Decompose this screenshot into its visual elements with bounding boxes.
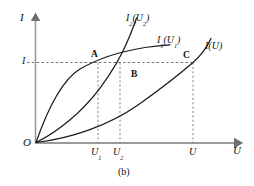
figure-container: I U O I U1 U2 U I2(U2) I1(U1) I(U) A B C… <box>0 0 254 186</box>
curve-I1-fn-subscript: 1 <box>160 42 163 49</box>
curve-I1-paren-close: ) <box>177 34 180 45</box>
y-axis-label: I <box>20 12 24 23</box>
figure-caption: (b) <box>118 167 130 177</box>
point-label-B: B <box>131 70 137 80</box>
plot-canvas <box>0 0 254 186</box>
curve-I2-paren-close: ) <box>146 12 149 23</box>
y-tick-label-I: I <box>22 56 25 66</box>
x-axis-label: U <box>233 145 241 156</box>
curve-I-paren-close: ) <box>219 40 222 51</box>
curve-I2-path <box>36 18 137 143</box>
curve-I1-arg-subscript: 1 <box>174 42 177 49</box>
curve-I2-arg-base: U <box>136 12 143 23</box>
curve-I2-arg-subscript: 2 <box>143 20 146 27</box>
curve-label-I2: I2(U2) <box>126 13 149 25</box>
curve-label-I: I(U) <box>205 41 222 51</box>
x-tick-U2-subscript: 2 <box>120 154 123 161</box>
curve-I1-path <box>36 45 170 143</box>
point-label-C: C <box>183 51 190 61</box>
x-tick-U-base: U <box>189 146 196 157</box>
point-label-A: A <box>91 50 98 60</box>
x-tick-label-U: U <box>189 147 196 157</box>
curve-I-arg-base: U <box>212 40 219 51</box>
x-tick-label-U1: U1 <box>91 147 101 159</box>
curve-I1-arg-base: U <box>167 34 174 45</box>
origin-label: O <box>23 137 31 148</box>
curve-label-I1: I1(U1) <box>157 35 180 47</box>
curve-I2-fn-subscript: 2 <box>129 20 132 27</box>
x-tick-label-U2: U2 <box>113 147 123 159</box>
x-tick-U1-subscript: 1 <box>98 154 101 161</box>
